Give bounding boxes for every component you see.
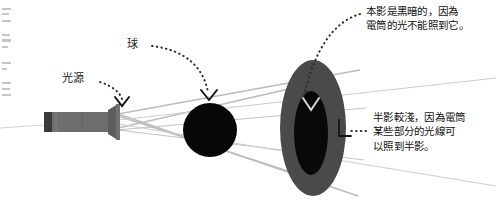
leader-line-light-source: [100, 82, 129, 106]
callout-penumbra-text: 半影較淺，因為電筒 某些部分的光線可 以照到半影。: [373, 110, 466, 153]
umbra-region: [294, 91, 328, 175]
ball-object: [183, 103, 237, 157]
flashlight: [44, 104, 120, 140]
leader-line-ball: [152, 46, 217, 100]
flashlight-barrel: [52, 112, 114, 132]
label-ball: 球: [127, 37, 138, 52]
callout-umbra-text: 本影是黑暗的，因為 電筒的光不能照到它。: [366, 4, 469, 33]
screen-shadow-group: [280, 60, 346, 196]
flashlight-end-cap: [44, 112, 53, 132]
diagram-canvas: 光源 球 本影是黑暗的，因為 電筒的光不能照到它。 半影較淺，因為電筒 某些部分…: [0, 0, 496, 208]
flashlight-lens: [116, 104, 120, 140]
label-light-source: 光源: [62, 71, 85, 86]
